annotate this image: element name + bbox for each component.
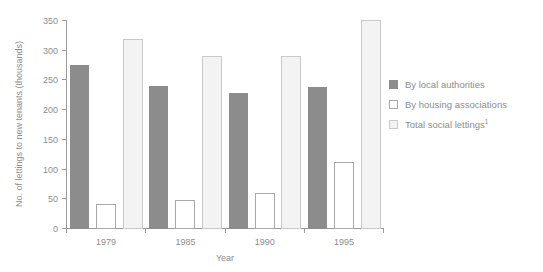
bar: [123, 39, 142, 228]
x-tick-label: 1979: [96, 237, 116, 247]
bar: [255, 194, 274, 229]
y-axis-tick-labels: 350 300 250 200 150 100 50 0: [43, 16, 58, 234]
y-tick-label: 300: [43, 46, 58, 56]
legend-footnote-marker: 1: [485, 118, 489, 125]
x-axis-ticks: [67, 229, 384, 234]
bar: [335, 163, 354, 229]
bar: [282, 56, 301, 228]
y-axis-title: No. of lettings to new tenants (thousand…: [14, 41, 24, 207]
bar: [361, 21, 380, 229]
bar: [70, 65, 89, 229]
chart-container: 350 300 250 200 150 100 50 0 No. of lett…: [0, 0, 543, 272]
y-tick-label: 50: [48, 194, 58, 204]
plot-area: 350 300 250 200 150 100 50 0 No. of lett…: [0, 0, 400, 272]
x-tick-label: 1990: [255, 237, 275, 247]
legend-label: By local authorities: [405, 79, 485, 90]
legend-item-local-authorities: By local authorities: [389, 79, 539, 92]
x-tick-label: 1985: [175, 237, 195, 247]
y-tick-label: 200: [43, 105, 58, 115]
y-tick-label: 100: [43, 165, 58, 175]
legend-label-with-footnote: Total social lettings1: [405, 119, 488, 130]
bar: [97, 204, 116, 228]
legend-item-total-social-lettings: Total social lettings1: [389, 119, 539, 132]
y-tick-label: 350: [43, 16, 58, 26]
chart-legend: By local authorities By housing associat…: [389, 79, 539, 139]
y-tick-label: 0: [53, 224, 58, 234]
legend-swatch-icon: [389, 120, 398, 129]
chart-svg: 350 300 250 200 150 100 50 0 No. of lett…: [0, 0, 400, 272]
bar: [176, 201, 195, 229]
x-axis-title: Year: [216, 253, 234, 263]
x-tick-label: 1995: [334, 237, 354, 247]
legend-swatch-icon: [389, 100, 398, 109]
bar: [149, 86, 168, 228]
y-tick-label: 250: [43, 75, 58, 85]
bars-group: [70, 21, 380, 229]
y-tick-label: 150: [43, 135, 58, 145]
legend-item-housing-associations: By housing associations: [389, 99, 539, 112]
bar: [229, 93, 248, 228]
x-axis-tick-labels: 1979 1985 1990 1995: [96, 237, 354, 247]
bar: [202, 56, 221, 228]
legend-label: By housing associations: [405, 99, 507, 110]
legend-label-text: Total social lettings: [405, 119, 485, 130]
legend-swatch-icon: [389, 80, 398, 89]
y-axis-ticks: [62, 21, 67, 229]
bar: [308, 87, 327, 228]
